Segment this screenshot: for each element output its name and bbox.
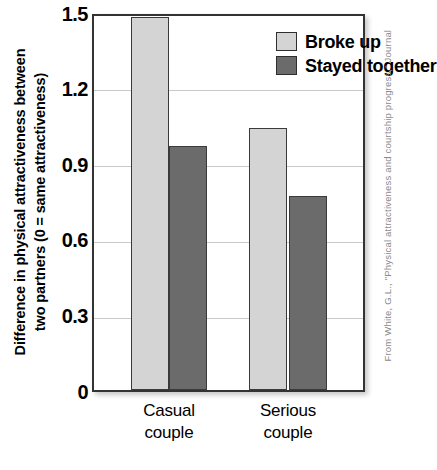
y-tick-label-1_2: 1.2 bbox=[44, 79, 88, 99]
x-tick-label-casual-line-2: couple bbox=[104, 422, 234, 444]
bar-casual-stayed-together bbox=[169, 146, 207, 390]
x-tick-label-serious-line-1: Serious bbox=[223, 400, 353, 422]
legend-swatch-broke-up bbox=[276, 32, 297, 51]
y-tick-label-1_5: 1.5 bbox=[44, 4, 88, 24]
legend-item-stayed-together: Stayed together bbox=[276, 56, 437, 75]
y-axis-title-line-1: Difference in physical attractiveness be… bbox=[10, 49, 30, 356]
legend-swatch-stayed-together bbox=[276, 56, 297, 75]
x-tick-label-serious-couple: Serious couple bbox=[223, 400, 353, 445]
legend-item-broke-up: Broke up bbox=[276, 32, 437, 51]
x-tick-label-casual-line-1: Casual bbox=[104, 400, 234, 422]
x-tick-label-serious-line-2: couple bbox=[223, 422, 353, 444]
bar-serious-broke-up bbox=[249, 128, 287, 390]
legend-label-stayed-together: Stayed together bbox=[305, 57, 437, 75]
chart-legend: Broke up Stayed together bbox=[276, 32, 437, 75]
source-credit: From White, G.L., "Physical attractivene… bbox=[382, 94, 393, 362]
bar-serious-stayed-together bbox=[289, 196, 327, 390]
y-tick-label-0: 0 bbox=[44, 382, 88, 402]
y-tick-label-0_3: 0.3 bbox=[44, 306, 88, 326]
legend-label-broke-up: Broke up bbox=[305, 33, 381, 51]
y-axis-tick-labels: 1.5 1.2 0.9 0.6 0.3 0 bbox=[36, 0, 88, 470]
x-tick-label-casual-couple: Casual couple bbox=[104, 400, 234, 445]
y-tick-label-0_9: 0.9 bbox=[44, 155, 88, 175]
plot-inner: Broke up Stayed together bbox=[94, 16, 363, 390]
bar-casual-broke-up bbox=[131, 17, 169, 390]
y-tick-label-0_6: 0.6 bbox=[44, 230, 88, 250]
plot-area: Broke up Stayed together bbox=[92, 14, 365, 392]
